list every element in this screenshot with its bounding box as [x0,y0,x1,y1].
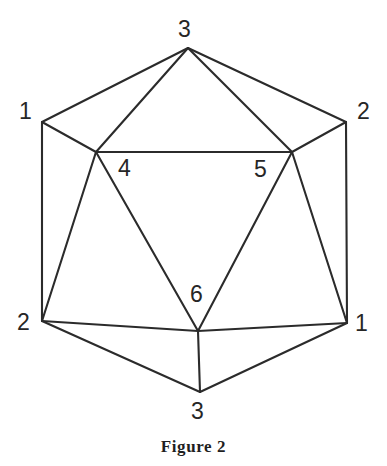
edge-group [42,48,347,392]
vertex-label-upper-left: 1 [19,100,32,123]
edge-upper-left-to-inner-left [42,122,96,152]
vertex-label-inner-left: 4 [118,157,131,180]
figure-caption: Figure 2 [0,437,387,457]
edge-upper-right-to-lower-right [346,122,347,323]
edge-lower-left-to-inner-bottom [42,321,198,331]
vertex-label-bottom-apex: 3 [191,400,204,423]
vertex-label-lower-left: 2 [17,311,30,334]
edge-lower-right-to-bottom-apex [200,323,347,392]
edge-inner-left-to-inner-bottom [96,152,198,331]
edge-upper-right-to-inner-right [292,122,346,152]
edge-lower-left-to-bottom-apex [42,321,200,392]
edge-top-apex-to-inner-left [96,48,188,152]
diagram-canvas [0,0,387,466]
edge-inner-left-to-lower-left [42,152,96,321]
vertex-label-lower-right: 1 [355,312,368,335]
edge-top-apex-to-upper-left [42,48,188,122]
edge-top-apex-to-inner-right [188,48,292,152]
vertex-label-inner-bottom: 6 [190,283,203,306]
vertex-label-upper-right: 2 [357,100,370,123]
edge-top-apex-to-upper-right [188,48,346,122]
edge-inner-bottom-to-bottom-apex [198,331,200,392]
vertex-label-inner-right: 5 [254,158,267,181]
figure-container: 312452163 Figure 2 [0,0,387,466]
edge-inner-right-to-lower-right [292,152,347,323]
edge-lower-right-to-inner-bottom [198,323,347,331]
edge-inner-right-to-inner-bottom [198,152,292,331]
vertex-label-top-apex: 3 [178,18,191,41]
